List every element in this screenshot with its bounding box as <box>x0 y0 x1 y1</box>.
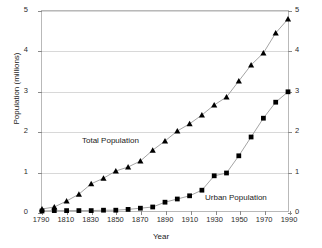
y-axis-left-tick-label: 5 <box>8 6 28 14</box>
data-point-square <box>163 200 168 205</box>
data-point-square <box>261 116 266 121</box>
y-axis-left-tick-label: 1 <box>8 168 28 176</box>
data-point-triangle <box>211 102 217 108</box>
y-axis-left-tick-label: 2 <box>8 127 28 135</box>
data-series-layer <box>42 11 288 211</box>
data-point-square <box>236 153 241 158</box>
data-point-triangle <box>285 16 291 22</box>
data-point-square <box>101 208 106 213</box>
annotation-urban-population: Urban Population <box>205 193 267 202</box>
annotation-total-population: Total Population <box>82 136 139 145</box>
population-chart: Population (millions) 012345 012345 1790… <box>0 0 322 248</box>
x-axis-tick-label: 1990 <box>272 215 306 224</box>
data-point-square <box>64 208 69 213</box>
data-point-square <box>187 193 192 198</box>
data-point-square <box>200 188 205 193</box>
series-total-population <box>39 16 291 212</box>
y-tick-mark-right <box>288 132 292 133</box>
data-point-triangle <box>260 50 266 56</box>
y-tick-mark-right <box>288 51 292 52</box>
data-point-square <box>286 89 291 94</box>
data-point-square <box>273 100 278 105</box>
x-axis-title: Year <box>0 232 322 241</box>
data-point-square <box>175 197 180 202</box>
series-line <box>42 19 288 209</box>
data-point-square <box>52 208 57 213</box>
y-axis-right-tick-label: 1 <box>295 168 315 176</box>
data-point-square <box>150 205 155 210</box>
data-point-square <box>40 209 45 214</box>
y-axis-right-tick-label: 2 <box>295 127 315 135</box>
y-axis-left-tick-label: 4 <box>8 46 28 54</box>
data-point-triangle <box>150 147 156 153</box>
data-point-triangle <box>125 164 131 170</box>
data-point-square <box>89 208 94 213</box>
data-point-square <box>77 208 82 213</box>
data-point-square <box>138 206 143 211</box>
y-axis-right-tick-label: 4 <box>295 46 315 54</box>
data-point-triangle <box>64 198 70 204</box>
y-axis-right-tick-label: 5 <box>295 6 315 14</box>
data-point-square <box>249 135 254 140</box>
data-point-square <box>212 173 217 178</box>
data-point-triangle <box>174 128 180 134</box>
data-point-triangle <box>88 181 94 187</box>
data-point-square <box>113 208 118 213</box>
y-axis-right-tick-label: 3 <box>295 87 315 95</box>
y-tick-mark-right <box>288 11 292 12</box>
data-point-triangle <box>187 121 193 127</box>
plot-area <box>41 10 289 212</box>
data-point-square <box>126 207 131 212</box>
y-tick-mark-right <box>288 173 292 174</box>
data-point-square <box>224 171 229 176</box>
data-point-triangle <box>100 175 106 181</box>
y-axis-left-tick-label: 3 <box>8 87 28 95</box>
